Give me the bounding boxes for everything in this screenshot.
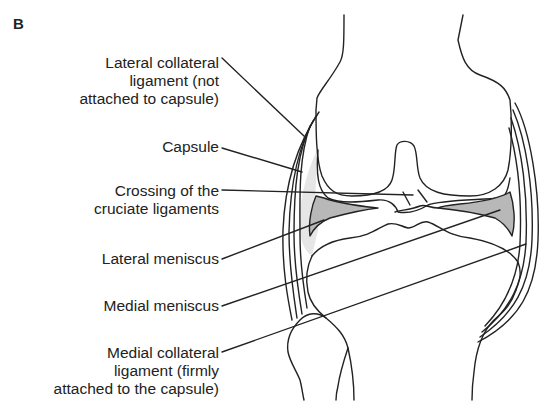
leader-medial-collateral: [222, 244, 526, 352]
femur-outline: [316, 15, 511, 196]
leader-capsule: [222, 148, 302, 172]
leader-lateral-collateral: [222, 58, 304, 136]
medial-meniscus-shape: [438, 192, 514, 236]
leader-medial-meniscus: [222, 210, 500, 306]
cruciate-crossing: [403, 192, 410, 205]
tibial-plateau: [312, 222, 520, 290]
leader-crossing-cruciate: [222, 190, 413, 195]
tibia-outline: [307, 256, 354, 400]
knee-joint-illustration: [0, 0, 551, 419]
